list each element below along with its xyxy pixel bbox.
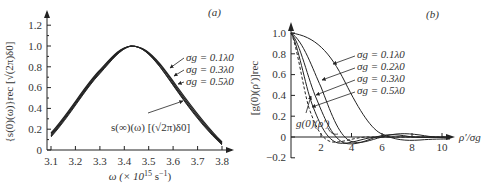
x-tick: 10 — [437, 141, 449, 153]
x-tick: 3.7 — [191, 155, 205, 167]
x-tick: 3.2 — [69, 155, 83, 167]
x-tick: 3.8 — [215, 155, 229, 167]
panel-b-label: (b) — [426, 8, 439, 21]
y-axis-arrow-icon — [288, 22, 294, 31]
annotation-limit: s(∞)(ω) [(√2π)δ0] — [111, 121, 190, 134]
annotation-sg-0.5: σg = 0.5λ0 — [186, 75, 234, 87]
annotation-sg-0.3: σg = 0.3λ0 — [186, 63, 234, 75]
annotation-limit: g(0)(ρ′) — [296, 117, 330, 130]
panel-a: (a) 0 0.2 0.4 — [3, 6, 234, 183]
panel-a-y-axis: 0 0.2 0.4 0.6 0.8 1.0 1.2 {s(0)(ω)}rec [… — [3, 10, 51, 156]
x-tick: 8 — [409, 141, 415, 153]
x-tick: 6 — [379, 141, 385, 153]
annotation-sg-0.2: σg = 0.2λ0 — [357, 60, 405, 72]
panel-a-annotations: σg = 0.1λ0 σg = 0.3λ0 σg = 0.5λ0 s(∞)(ω)… — [111, 51, 234, 134]
panel-b: (b) −0.2 0 0.2 0.4 0.6 0.8 1.0 [g(0)(ρ′)… — [248, 8, 481, 163]
panel-b-x-axis: 2 4 6 8 10 ρ′/σg — [291, 131, 481, 153]
panel-b-annotations: σg = 0.1λ0 σg = 0.2λ0 σg = 0.3λ0 σg = 0.… — [296, 48, 405, 134]
y-tick: 1.0 — [28, 40, 42, 52]
y-tick: 0.2 — [28, 123, 42, 135]
y-tick: 0.6 — [28, 81, 42, 93]
y-tick: 0 — [37, 144, 43, 156]
figure: (a) 0 0.2 0.4 — [0, 0, 493, 188]
y-tick: 0.4 — [272, 89, 286, 101]
panel-a-label: (a) — [208, 6, 221, 19]
x-tick: 3.5 — [142, 155, 156, 167]
annotation-sg-0.1: σg = 0.1λ0 — [357, 48, 405, 60]
y-tick: 0.6 — [272, 68, 286, 80]
x-tick: 3.3 — [93, 155, 107, 167]
y-axis-arrow-icon — [44, 10, 50, 18]
x-tick: 3.4 — [117, 155, 131, 167]
panel-b-y-axis: −0.2 0 0.2 0.4 0.6 0.8 1.0 [g(0)(ρ′)]rec — [248, 22, 295, 163]
x-tick: 3.1 — [44, 155, 58, 167]
panel-a-y-axis-label: {s(0)(ω)}rec [√(2π)δ0] — [3, 42, 16, 143]
y-tick: 0.4 — [28, 102, 42, 114]
panel-b-y-axis-label: [g(0)(ρ′)]rec — [248, 61, 261, 115]
x-axis-arrow-icon — [226, 147, 234, 153]
y-tick: −0.2 — [266, 151, 286, 163]
panel-a-x-axis-label: ω (× 1015 s−1) — [109, 169, 172, 183]
y-tick: 0.2 — [272, 110, 286, 122]
y-tick: 0.8 — [272, 48, 286, 60]
panel-b-x-axis-label: ρ′/σg — [458, 131, 481, 143]
annotation-sg-0.3: σg = 0.3λ0 — [357, 72, 405, 84]
panel-a-x-axis: 3.1 3.2 3.3 3.4 3.5 3.6 3.7 3.8 ω (× 101… — [44, 146, 234, 183]
annotation-sg-0.1: σg = 0.1λ0 — [186, 51, 234, 63]
y-tick: 0.8 — [28, 61, 42, 73]
x-tick: 2 — [318, 141, 324, 153]
x-tick: 3.6 — [166, 155, 180, 167]
annotation-sg-0.5: σg = 0.5λ0 — [357, 84, 405, 96]
y-tick: 0 — [281, 131, 287, 143]
y-tick: 1.0 — [272, 27, 286, 39]
y-tick: 1.2 — [28, 19, 42, 31]
